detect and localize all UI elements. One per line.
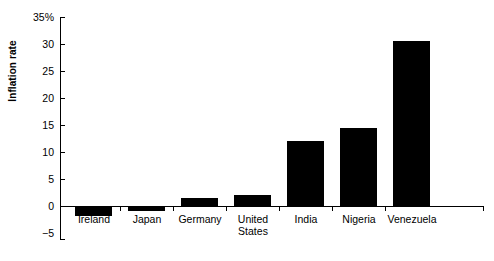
x-tick-1 xyxy=(120,207,121,211)
y-tick-label-35: 35% xyxy=(18,12,54,22)
x-tick-4 xyxy=(279,207,280,211)
y-tick-label-15: 15 xyxy=(18,120,54,130)
y-tick-label-20: 20 xyxy=(18,93,54,103)
bar-germany xyxy=(181,198,218,206)
y-tick-label-5: 5 xyxy=(18,174,54,184)
bar-united-states xyxy=(234,195,271,206)
y-tick-25 xyxy=(61,71,65,72)
x-label-ireland: Ireland xyxy=(66,213,122,225)
x-label-venezuela: Venezuela xyxy=(382,213,442,225)
y-tick-5 xyxy=(61,179,65,180)
bar-japan xyxy=(128,207,165,211)
y-tick-label-0: 0 xyxy=(18,201,54,211)
y-axis-bottom-cap xyxy=(60,239,65,240)
bar-venezuela xyxy=(393,41,430,206)
x-label-nigeria: Nigeria xyxy=(331,213,387,225)
y-tick-label-30: 30 xyxy=(18,39,54,49)
x-label-japan: Japan xyxy=(119,213,175,225)
y-tick-label-25: 25 xyxy=(18,66,54,76)
x-axis-line xyxy=(60,206,484,207)
y-tick-20 xyxy=(61,98,65,99)
x-axis-right-cap xyxy=(483,206,484,211)
y-tick-10 xyxy=(61,152,65,153)
x-tick-5 xyxy=(332,207,333,211)
x-tick-2 xyxy=(173,207,174,211)
x-tick-6 xyxy=(385,207,386,211)
y-tick-label-neg5: −5 xyxy=(18,228,54,238)
inflation-rate-bar-chart: Inflation rate 35% 30 25 20 15 10 5 0 −5 xyxy=(0,0,494,261)
bar-nigeria xyxy=(340,128,377,206)
plot-area: Ireland Japan Germany United States Indi… xyxy=(60,10,494,255)
bar-india xyxy=(287,141,324,206)
x-label-united-states: United States xyxy=(225,213,281,237)
y-axis-tick-labels: 35% 30 25 20 15 10 5 0 −5 xyxy=(18,0,54,261)
y-tick-15 xyxy=(61,125,65,126)
y-axis-top-cap xyxy=(60,17,65,18)
x-label-india: India xyxy=(278,213,334,225)
y-tick-label-10: 10 xyxy=(18,147,54,157)
x-tick-3 xyxy=(226,207,227,211)
x-label-germany: Germany xyxy=(172,213,228,225)
y-tick-30 xyxy=(61,44,65,45)
